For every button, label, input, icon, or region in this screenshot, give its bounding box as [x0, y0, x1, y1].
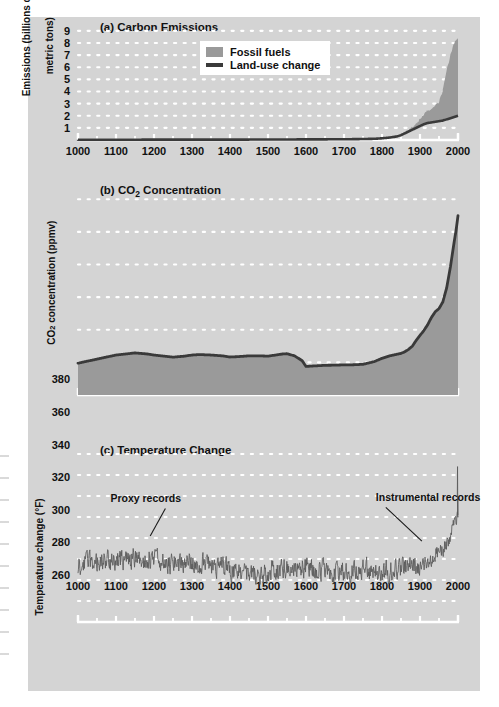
land-use-change-swatch-icon — [206, 63, 223, 67]
legend-label-fossil-fuels: Fossil fuels — [230, 46, 291, 58]
panel-a-legend: Fossil fuels Land-use change — [200, 41, 330, 75]
legend-item-fossil-fuels: Fossil fuels — [206, 45, 320, 58]
panel-co2-concentration: CO2 concentration (ppmv) 260280300320340… — [0, 180, 499, 430]
legend-label-land-use-change: Land-use change — [230, 59, 320, 71]
annotation-instrumental-records: Instrumental records — [376, 491, 480, 503]
panel-c-plot — [0, 440, 499, 690]
figure-container: Emissions (billions of metric tons) 1234… — [0, 0, 499, 707]
legend-item-land-use-change: Land-use change — [206, 58, 320, 71]
panel-b-plot — [0, 180, 499, 430]
fossil-fuels-swatch-icon — [206, 47, 223, 57]
annotation-proxy-records: Proxy records — [110, 492, 181, 504]
panel-a-plot — [0, 0, 499, 160]
panel-temperature-change: Temperature change (°F) 10.80.60.40.20–0… — [0, 440, 499, 690]
panel-carbon-emissions: Emissions (billions of metric tons) 1234… — [0, 0, 499, 160]
